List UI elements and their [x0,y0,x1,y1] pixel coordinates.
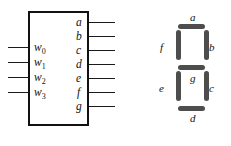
segment-label-d: d [190,113,196,124]
output-label-g: g [76,101,82,113]
input-label-w1: w1 [34,57,46,71]
segment-a [178,24,205,29]
segment-f [176,30,181,60]
segment-c [204,71,209,101]
input-label-w2-base: w [34,71,42,83]
input-label-w3: w3 [34,87,46,101]
output-wire-a [89,22,115,23]
input-label-w3-subscript: 3 [42,92,46,101]
input-label-w0-subscript: 0 [42,47,46,56]
output-wire-g [89,106,115,107]
output-wire-e [89,78,115,79]
input-label-w1-subscript: 1 [42,62,46,71]
segment-e [176,71,181,101]
input-wire-w3 [8,92,28,93]
segment-d [178,106,205,111]
input-wire-w0 [8,47,28,48]
segment-label-a: a [190,12,196,23]
output-label-f: f [77,87,80,99]
input-label-w0-base: w [34,41,42,53]
segment-label-f: f [160,42,163,53]
input-label-w2-subscript: 2 [42,77,46,86]
segment-b [204,30,209,60]
output-wire-f [89,92,115,93]
output-wire-b [89,36,115,37]
output-label-d: d [76,59,82,71]
segment-g [178,65,205,70]
output-label-c: c [76,45,81,57]
input-label-w1-base: w [34,56,42,68]
output-wire-c [89,50,115,51]
input-label-w0: w0 [34,42,46,56]
segment-label-b: b [209,42,215,53]
output-label-a: a [76,17,82,29]
segment-label-e: e [159,83,164,94]
input-label-w3-base: w [34,86,42,98]
segment-label-g: g [190,73,196,84]
input-label-w2: w2 [34,72,46,86]
input-wire-w1 [8,62,28,63]
output-label-e: e [76,73,81,85]
segment-label-c: c [209,83,214,94]
seven-segment-display [170,18,214,122]
output-wire-d [89,64,115,65]
output-label-b: b [76,31,82,43]
figure-canvas: w0 w1 w2 w3 a b c d e f g a b c d e f g [0,0,231,146]
input-wire-w2 [8,77,28,78]
